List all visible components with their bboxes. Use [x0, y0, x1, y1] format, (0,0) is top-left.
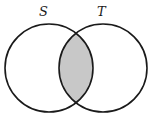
- venn-diagram: [0, 0, 153, 117]
- set-s-label: S: [39, 5, 48, 18]
- set-t-label: T: [97, 5, 106, 18]
